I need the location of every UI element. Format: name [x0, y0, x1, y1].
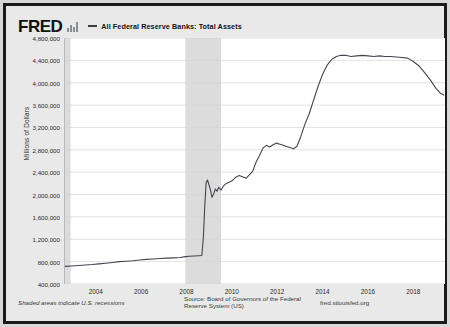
y-tick-label: 4,400,000	[32, 57, 60, 64]
fred-chart-screenshot: FRED All Federal Reserve Banks: Total As…	[0, 0, 450, 327]
y-tick-label: 1,200,000	[32, 236, 60, 243]
x-tick-label: 2008	[179, 288, 193, 295]
x-tick-label: 2012	[270, 288, 284, 295]
y-tick-label: 3,600,000	[32, 102, 60, 109]
y-tick-label: 400,000	[38, 281, 60, 288]
legend-line-swatch	[88, 25, 97, 27]
legend-series-label: All Federal Reserve Banks: Total Assets	[101, 22, 242, 31]
x-tick-label: 2004	[89, 288, 103, 295]
y-tick-label: 4,800,000	[32, 35, 60, 42]
y-tick-label: 2,000,000	[32, 191, 60, 198]
chart-footer: Shaded areas indicate U.S. recessions So…	[18, 295, 432, 309]
recession-band	[185, 38, 221, 284]
y-tick-label: 4,000,000	[32, 79, 60, 86]
y-tick-label: 2,800,000	[32, 146, 60, 153]
source-note: Source: Board of Governors of the Federa…	[168, 295, 320, 309]
recession-bands	[65, 38, 221, 284]
chart-svg	[65, 38, 445, 284]
chart-header: FRED All Federal Reserve Banks: Total As…	[18, 16, 242, 36]
fred-url[interactable]: fred.stlouisfed.org	[320, 299, 432, 306]
y-tick-label: 800,000	[38, 258, 60, 265]
x-tick-label: 2010	[225, 288, 239, 295]
y-tick-label: 2,400,000	[32, 169, 60, 176]
fred-logo[interactable]: FRED	[18, 18, 62, 35]
x-tick-label: 2014	[315, 288, 329, 295]
plot-area: 400,000800,0001,200,0001,600,0002,000,00…	[64, 38, 445, 284]
bar-chart-icon	[67, 21, 80, 32]
gridlines	[65, 38, 445, 284]
series-line	[65, 55, 444, 266]
y-axis-title: Millions of Dollars	[23, 84, 30, 184]
chart-inner-panel: FRED All Federal Reserve Banks: Total As…	[12, 12, 438, 315]
x-tick-label: 2006	[134, 288, 148, 295]
recession-band	[65, 38, 71, 284]
x-tick-label: 2018	[406, 288, 420, 295]
chart-legend: All Federal Reserve Banks: Total Assets	[88, 22, 242, 31]
y-tick-label: 1,600,000	[32, 213, 60, 220]
plot-canvas[interactable]	[64, 38, 445, 284]
recession-note: Shaded areas indicate U.S. recessions	[18, 299, 168, 306]
x-tick-label: 2016	[361, 288, 375, 295]
y-tick-label: 3,200,000	[32, 124, 60, 131]
chart-frame: FRED All Federal Reserve Banks: Total As…	[3, 3, 447, 324]
